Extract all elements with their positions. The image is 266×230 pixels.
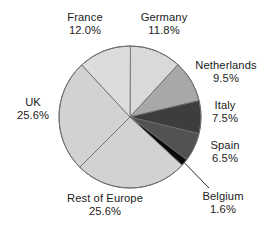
slice-label-italy-name: Italy bbox=[200, 99, 250, 112]
slice-label-france-percent: 12.0% bbox=[52, 24, 118, 37]
slice-label-netherlands-name: Netherlands bbox=[186, 59, 266, 72]
slice-label-germany-percent: 11.8% bbox=[126, 24, 202, 37]
slice-label-spain: Spain 6.5% bbox=[198, 139, 252, 165]
slice-label-rest-of-europe: Rest of Europe 25.6% bbox=[50, 192, 160, 218]
pie-slice-group bbox=[59, 46, 201, 188]
slice-label-belgium-percent: 1.6% bbox=[192, 203, 254, 216]
slice-label-spain-percent: 6.5% bbox=[198, 152, 252, 165]
slice-label-belgium-name: Belgium bbox=[192, 190, 254, 203]
slice-label-spain-name: Spain bbox=[198, 139, 252, 152]
slice-label-germany: Germany 11.8% bbox=[126, 11, 202, 37]
slice-label-rest-of-europe-name: Rest of Europe bbox=[50, 192, 160, 205]
slice-label-uk: UK 25.6% bbox=[4, 96, 62, 122]
pie-chart-figure: France 12.0% Germany 11.8% Netherlands 9… bbox=[0, 0, 266, 230]
belgium-leader-line bbox=[184, 162, 209, 188]
slice-label-france: France 12.0% bbox=[52, 11, 118, 37]
slice-label-netherlands: Netherlands 9.5% bbox=[186, 59, 266, 85]
slice-label-france-name: France bbox=[52, 11, 118, 24]
slice-label-germany-name: Germany bbox=[126, 11, 202, 24]
slice-label-belgium: Belgium 1.6% bbox=[192, 190, 254, 216]
slice-label-rest-of-europe-percent: 25.6% bbox=[50, 205, 160, 218]
slice-label-netherlands-percent: 9.5% bbox=[186, 72, 266, 85]
slice-label-italy: Italy 7.5% bbox=[200, 99, 250, 125]
slice-label-uk-name: UK bbox=[4, 96, 62, 109]
slice-label-italy-percent: 7.5% bbox=[200, 112, 250, 125]
slice-label-uk-percent: 25.6% bbox=[4, 109, 62, 122]
